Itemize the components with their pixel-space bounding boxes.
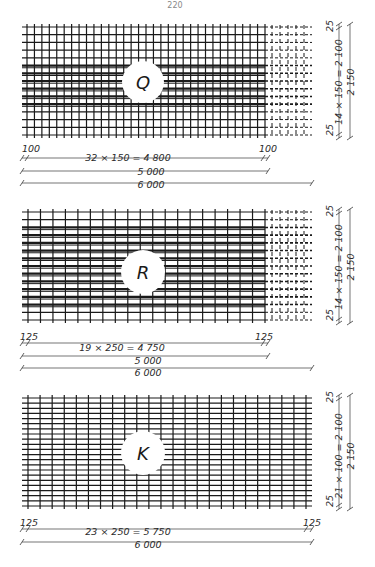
q-panel-label: Q xyxy=(136,72,150,93)
k-inner-dim: 23 × 250 = 5 750 xyxy=(85,526,170,537)
k-inner-vertical-dim: 21 × 100 = 2 100 xyxy=(333,413,344,498)
r-top-edge-dim: 25 xyxy=(324,205,335,217)
r-mid-dim: 5 000 xyxy=(134,355,161,366)
q-bottom-edge-dim: 25 xyxy=(324,124,335,136)
q-edge-left-dim: 100 xyxy=(22,143,40,154)
k-edge-left-dim: 125 xyxy=(20,517,38,528)
k-panel-label: K xyxy=(137,443,150,464)
panel-q xyxy=(20,22,353,186)
q-total-vertical-dim: 2 150 xyxy=(345,68,356,95)
q-edge-right-dim: 100 xyxy=(259,143,277,154)
r-total-dim: 6 000 xyxy=(134,367,161,378)
r-edge-left-dim: 125 xyxy=(20,331,38,342)
r-inner-dim: 19 × 250 = 4 750 xyxy=(79,342,164,353)
q-inner-dim: 32 × 150 = 4 800 xyxy=(85,152,170,163)
q-mid-dim: 5 000 xyxy=(137,166,164,177)
r-edge-right-dim: 125 xyxy=(255,331,273,342)
r-total-vertical-dim: 2 150 xyxy=(345,253,356,280)
k-top-edge-dim: 25 xyxy=(324,391,335,403)
r-panel-label: R xyxy=(137,262,150,283)
q-total-dim: 6 000 xyxy=(137,179,164,190)
page-number: 220 xyxy=(167,1,182,10)
q-top-edge-dim: 25 xyxy=(324,20,335,32)
q-inner-vertical-dim: 14 × 150 = 2 100 xyxy=(333,39,344,124)
r-inner-vertical-dim: 14 × 150 = 2 100 xyxy=(333,224,344,309)
k-edge-right-dim: 125 xyxy=(303,517,321,528)
k-total-dim: 6 000 xyxy=(134,539,161,550)
reinforcement-mesh-drawing: 220 100 100 32 × 150 = 4 800 5 000 6 000… xyxy=(0,0,375,567)
r-bottom-edge-dim: 25 xyxy=(324,309,335,321)
panel-r xyxy=(20,207,353,371)
k-total-vertical-dim: 2 150 xyxy=(345,442,356,469)
